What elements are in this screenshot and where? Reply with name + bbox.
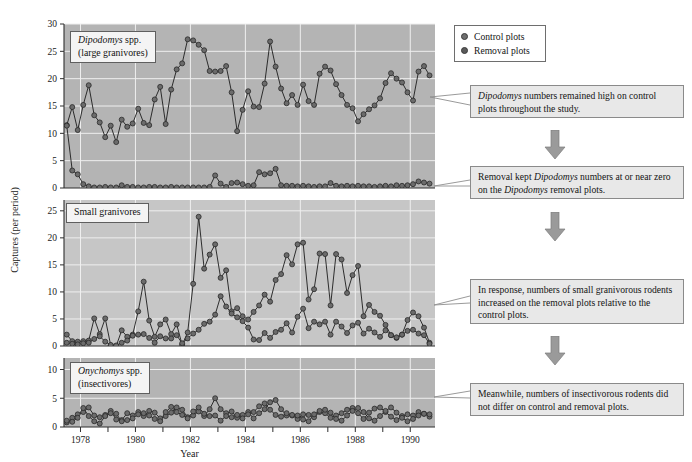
data-point: [378, 96, 383, 101]
data-point: [290, 183, 295, 188]
data-point: [202, 321, 207, 326]
data-point: [246, 325, 251, 330]
data-point: [422, 64, 427, 69]
data-point: [119, 419, 124, 424]
data-point: [422, 411, 427, 416]
data-point: [196, 185, 201, 190]
data-point: [405, 419, 410, 424]
data-point: [152, 340, 157, 345]
data-point: [229, 409, 234, 414]
legend-label-removal: Removal plots: [474, 45, 530, 56]
data-point: [251, 337, 256, 342]
leader-line: [434, 180, 470, 186]
arrow-down-icon-1: [544, 130, 566, 160]
panel-label-line1-rest: spp.: [126, 365, 142, 376]
data-point: [141, 120, 146, 125]
leader-line: [434, 397, 470, 398]
data-point: [196, 42, 201, 47]
data-point: [158, 322, 163, 327]
data-point: [279, 272, 284, 277]
data-point: [317, 322, 322, 327]
data-point: [328, 332, 333, 337]
data-point: [268, 299, 273, 304]
data-point: [339, 324, 344, 329]
data-point: [229, 415, 234, 420]
data-point: [92, 113, 97, 118]
data-point: [169, 87, 174, 92]
data-point: [196, 405, 201, 410]
data-point: [295, 413, 300, 418]
data-point: [158, 419, 163, 424]
data-point: [339, 418, 344, 423]
data-point: [141, 411, 146, 416]
data-point: [312, 412, 317, 417]
data-point: [163, 336, 168, 341]
x-tick-label: 1982: [181, 435, 200, 445]
data-point: [317, 408, 322, 413]
data-point: [306, 419, 311, 424]
data-point: [356, 320, 361, 325]
data-point: [394, 183, 399, 188]
data-point: [114, 185, 119, 190]
y-tick-label: 5: [52, 156, 57, 166]
data-point: [70, 341, 75, 346]
data-point: [141, 185, 146, 190]
data-point: [207, 414, 212, 419]
data-point: [257, 303, 262, 308]
x-tick-label: 1986: [291, 435, 310, 445]
data-point: [367, 326, 372, 331]
data-point: [174, 333, 179, 338]
leader-line: [430, 97, 470, 105]
data-point: [372, 418, 377, 423]
data-point: [290, 412, 295, 417]
data-point: [301, 306, 306, 311]
y-tick-label: 5: [52, 314, 57, 324]
data-point: [356, 119, 361, 124]
data-point: [328, 303, 333, 308]
data-point: [301, 183, 306, 188]
data-point: [147, 318, 152, 323]
data-point: [262, 401, 267, 406]
data-point: [306, 412, 311, 417]
data-point: [185, 185, 190, 190]
callout-2-p0: Removal kept: [478, 171, 534, 182]
y-tick-label: 25: [48, 206, 58, 216]
data-point: [75, 128, 80, 133]
data-point: [422, 333, 427, 338]
data-point: [191, 331, 196, 336]
data-point: [246, 89, 251, 94]
data-point: [400, 80, 405, 85]
callout-2-p4: removal plots.: [548, 184, 605, 195]
data-point: [422, 325, 427, 330]
data-point: [97, 185, 102, 190]
data-point: [334, 82, 339, 87]
data-point: [235, 306, 240, 311]
data-point: [213, 312, 218, 317]
x-tick-label: 1990: [401, 435, 420, 445]
legend-item-control: Control plots: [461, 29, 540, 43]
data-point: [207, 319, 212, 324]
data-point: [174, 185, 179, 190]
data-point: [268, 400, 273, 405]
data-point: [152, 410, 157, 415]
data-point: [350, 273, 355, 278]
data-point: [394, 335, 399, 340]
data-point: [70, 419, 75, 424]
data-point: [114, 343, 119, 348]
y-tick-label: 10: [48, 365, 58, 375]
data-point: [218, 418, 223, 423]
data-point: [174, 67, 179, 72]
data-point: [279, 86, 284, 91]
data-point: [383, 183, 388, 188]
panel-label-line2: (large granivores): [78, 47, 148, 58]
data-point: [240, 319, 245, 324]
data-point: [218, 294, 223, 299]
data-point: [290, 262, 295, 267]
callout-2-p1: Dipodomys: [534, 171, 578, 182]
data-point: [191, 281, 196, 286]
data-point: [268, 407, 273, 412]
data-point: [345, 407, 350, 412]
data-point: [224, 304, 229, 309]
data-point: [405, 328, 410, 333]
data-point: [125, 184, 130, 189]
